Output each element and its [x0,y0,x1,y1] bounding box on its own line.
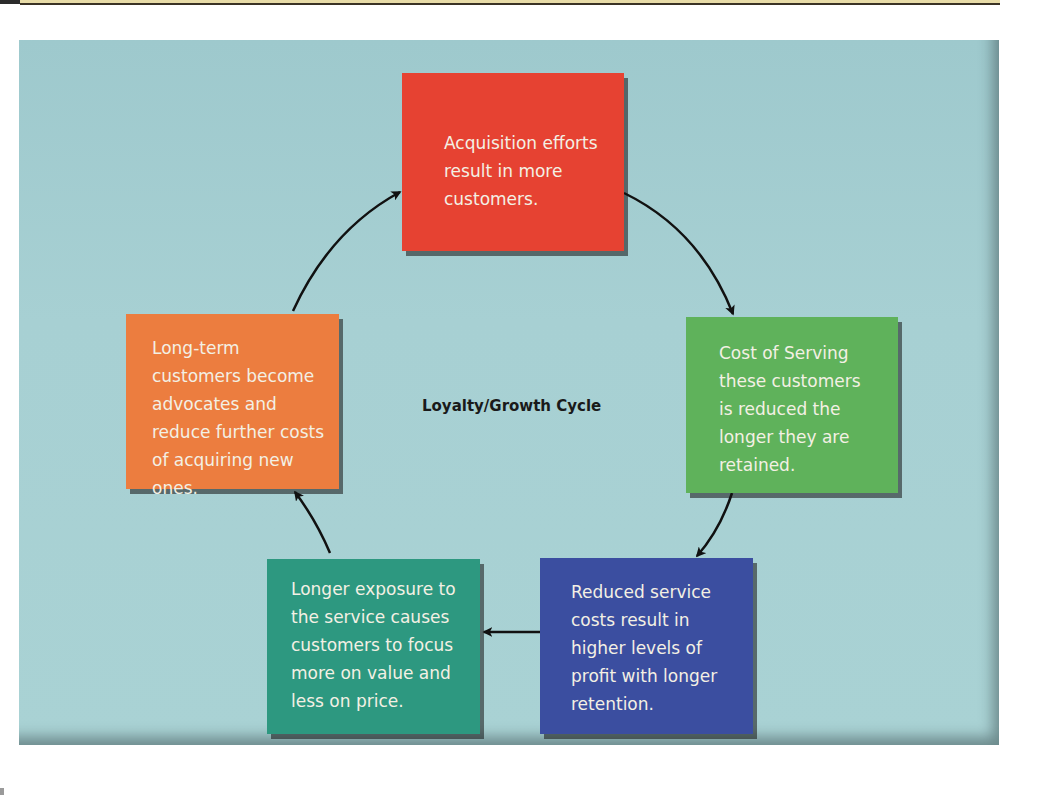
node-cost-of-serving: Cost of Serving these customers is reduc… [686,317,898,493]
node-text-line: Long-term [152,334,339,362]
node-text-line: more on value and [291,659,480,687]
node-acquisition: Acquisition efforts result in more custo… [402,73,624,251]
node-text-line: customers become [152,362,339,390]
node-advocates: Long-term customers become advocates and… [126,314,339,489]
page-top-band [20,0,1000,5]
node-text-line: retained. [719,451,898,479]
node-text-line: customers to focus [291,631,480,659]
node-text-line: profit with longer [571,662,753,690]
node-text-line: is reduced the [719,395,898,423]
node-reduced-costs: Reduced service costs result in higher l… [540,558,753,734]
node-longer-exposure: Longer exposure to the service causes cu… [267,559,480,734]
node-text-line: retention. [571,690,753,718]
node-text-line: costs result in [571,606,753,634]
node-text-line: Cost of Serving [719,339,898,367]
node-text-line: advocates and [152,390,339,418]
diagram-title: Loyalty/Growth Cycle [422,397,601,415]
corner-mark [0,788,4,795]
node-text-line: less on price. [291,687,480,715]
node-text-line: the service causes [291,603,480,631]
node-text-line: longer they are [719,423,898,451]
node-text-line: result in more [444,157,624,185]
node-text-line: of acquiring new ones. [152,446,339,502]
node-text-line: Longer exposure to [291,575,480,603]
node-text-line: Acquisition efforts [444,129,624,157]
node-text-line: Reduced service [571,578,753,606]
node-text-line: customers. [444,185,624,213]
node-text-line: reduce further costs [152,418,339,446]
node-text-line: these customers [719,367,898,395]
node-text-line: higher levels of [571,634,753,662]
